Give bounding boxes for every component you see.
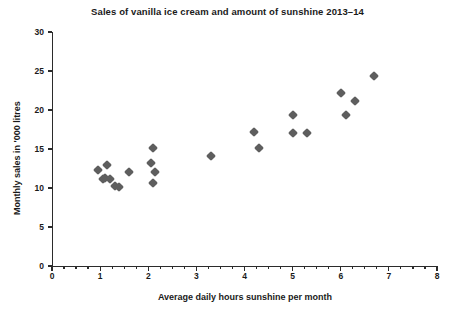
x-tick-minor bbox=[256, 266, 257, 269]
x-tick-minor bbox=[136, 266, 137, 269]
x-tick-label: 4 bbox=[235, 271, 255, 281]
x-tick-label: 3 bbox=[186, 271, 206, 281]
x-tick-minor bbox=[280, 266, 281, 269]
x-tick-label: 7 bbox=[379, 271, 399, 281]
x-tick-minor bbox=[412, 266, 413, 269]
x-tick-minor bbox=[87, 266, 88, 269]
x-tick-minor bbox=[268, 266, 269, 269]
x-tick-minor bbox=[124, 266, 125, 269]
x-tick-minor bbox=[328, 266, 329, 269]
x-tick-minor bbox=[160, 266, 161, 269]
y-tick-label: 0 bbox=[18, 261, 44, 271]
x-tick-label: 1 bbox=[90, 271, 110, 281]
y-tick-label: 5 bbox=[18, 222, 44, 232]
x-tick-minor bbox=[75, 266, 76, 269]
x-axis-title: Average daily hours sunshine per month bbox=[52, 292, 438, 302]
x-tick-minor bbox=[184, 266, 185, 269]
chart-title: Sales of vanilla ice cream and amount of… bbox=[0, 6, 455, 17]
x-tick-minor bbox=[316, 266, 317, 269]
y-tick-label: 25 bbox=[18, 66, 44, 76]
x-tick-minor bbox=[400, 266, 401, 269]
x-tick-minor bbox=[232, 266, 233, 269]
x-tick-minor bbox=[352, 266, 353, 269]
x-tick-minor bbox=[112, 266, 113, 269]
y-tick-label: 30 bbox=[18, 27, 44, 37]
x-tick-minor bbox=[364, 266, 365, 269]
x-tick-minor bbox=[220, 266, 221, 269]
x-tick-minor bbox=[376, 266, 377, 269]
x-tick-label: 8 bbox=[427, 271, 447, 281]
plot-area bbox=[52, 32, 437, 266]
x-tick-minor bbox=[424, 266, 425, 269]
x-tick-minor bbox=[208, 266, 209, 269]
x-tick-label: 5 bbox=[283, 271, 303, 281]
y-axis-title: Monthly sales in '000 litres bbox=[12, 101, 22, 215]
x-tick-label: 6 bbox=[331, 271, 351, 281]
x-tick-label: 2 bbox=[138, 271, 158, 281]
x-tick-label: 0 bbox=[42, 271, 62, 281]
scatter-chart: Sales of vanilla ice cream and amount of… bbox=[0, 0, 455, 317]
x-tick-minor bbox=[304, 266, 305, 269]
x-tick-minor bbox=[172, 266, 173, 269]
x-tick-minor bbox=[63, 266, 64, 269]
